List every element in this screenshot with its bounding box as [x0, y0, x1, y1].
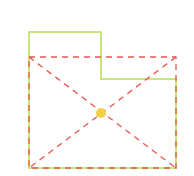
diagram-canvas: [0, 0, 194, 176]
center-point-marker: [96, 108, 106, 118]
l-shaped-polygon: [29, 32, 176, 168]
